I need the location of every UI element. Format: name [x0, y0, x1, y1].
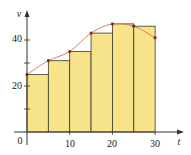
data-point	[47, 59, 50, 62]
bar	[91, 33, 112, 132]
chart: 40 20 0 10 20 30 t v	[0, 0, 191, 155]
data-point	[154, 36, 157, 39]
bar	[112, 24, 133, 132]
y-axis-label: v	[17, 8, 22, 19]
x-tick-label-10: 10	[65, 138, 75, 149]
data-point	[68, 50, 71, 53]
origin-label: 0	[18, 135, 23, 146]
bar	[48, 61, 69, 132]
x-tick-label-30: 30	[150, 138, 160, 149]
bar-series	[27, 24, 155, 132]
data-point	[111, 22, 114, 25]
bar	[27, 75, 48, 133]
y-axis-arrow-icon	[25, 10, 30, 17]
x-axis-arrow-icon	[177, 130, 184, 135]
bar	[70, 52, 91, 133]
x-axis-label: t	[178, 136, 181, 147]
x-tick-label-20: 20	[107, 138, 117, 149]
y-tick-label-40: 40	[12, 33, 22, 44]
bar	[134, 26, 155, 132]
y-tick-label-20: 20	[12, 80, 22, 91]
data-point	[89, 31, 92, 34]
data-point	[132, 25, 135, 28]
